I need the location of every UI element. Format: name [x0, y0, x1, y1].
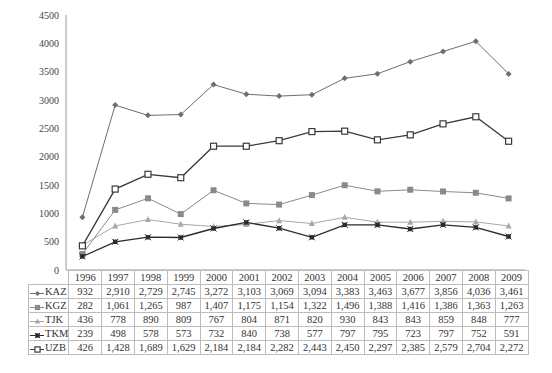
table-cell: 795 — [364, 327, 397, 341]
table-row: TKM2394985785737328407385777977957237977… — [29, 327, 529, 341]
table-cell: 436 — [69, 313, 102, 327]
data-point-marker — [79, 214, 85, 220]
data-point-marker — [276, 225, 282, 231]
data-point-marker — [342, 222, 348, 228]
data-point-marker — [473, 114, 479, 120]
data-point-marker — [243, 91, 249, 97]
y-tick-label: 4000 — [39, 38, 59, 49]
table-cell: 2,910 — [102, 285, 135, 299]
table-header-year: 2006 — [397, 271, 430, 285]
series-tkm — [79, 219, 511, 259]
table-cell: 573 — [167, 327, 200, 341]
table-cell: 1,388 — [364, 299, 397, 313]
table-cell: 2,704 — [462, 341, 495, 355]
table-cell: 3,677 — [397, 285, 430, 299]
table-header-year: 2007 — [430, 271, 463, 285]
table-cell: 987 — [167, 299, 200, 313]
square-open-marker-icon — [30, 345, 44, 353]
data-point-marker — [407, 132, 413, 138]
table-header-year: 1996 — [69, 271, 102, 285]
legend-entry: TKM — [29, 327, 69, 341]
y-tick-label: 4500 — [39, 10, 59, 21]
series-kgz — [79, 182, 511, 257]
data-point-marker — [243, 200, 249, 206]
data-point-marker — [145, 112, 151, 118]
table-header-year: 1998 — [134, 271, 167, 285]
table-cell: 930 — [331, 313, 364, 327]
series-uzb — [79, 114, 511, 249]
table-cell: 1,175 — [233, 299, 266, 313]
data-point-marker — [178, 211, 184, 217]
table-cell: 797 — [331, 327, 364, 341]
diamond-marker-icon — [30, 289, 44, 297]
y-tick-label: 500 — [44, 236, 59, 247]
table-cell: 804 — [233, 313, 266, 327]
data-point-marker — [309, 129, 315, 135]
table-cell: 2,579 — [430, 341, 463, 355]
data-point-marker — [79, 253, 85, 259]
table-cell: 732 — [200, 327, 233, 341]
data-point-marker — [374, 222, 380, 228]
data-point-marker — [473, 190, 479, 196]
data-table: 1996199719981999200020012002200320042005… — [28, 270, 529, 355]
data-point-marker — [342, 182, 348, 188]
table-cell: 843 — [364, 313, 397, 327]
star-marker-icon — [30, 331, 44, 339]
table-cell: 723 — [397, 327, 430, 341]
data-point-marker — [276, 93, 282, 99]
table-cell: 1,689 — [134, 341, 167, 355]
legend-label: TKM — [45, 328, 68, 339]
data-point-marker — [342, 214, 348, 220]
legend-label: KAZ — [45, 286, 67, 297]
y-tick-label: 3500 — [39, 66, 59, 77]
y-tick-label: 3000 — [39, 95, 59, 106]
table-header-year: 2001 — [233, 271, 266, 285]
data-point-marker — [112, 186, 118, 192]
table-cell: 3,383 — [331, 285, 364, 299]
table-cell: 282 — [69, 299, 102, 313]
data-point-marker — [506, 195, 512, 201]
table-header-year: 2002 — [266, 271, 299, 285]
table-cell: 1,322 — [298, 299, 331, 313]
data-point-marker — [276, 138, 282, 144]
data-point-marker — [309, 192, 315, 198]
table-row: KGZ2821,0611,2659871,4071,1751,1541,3221… — [29, 299, 529, 313]
table-cell: 809 — [167, 313, 200, 327]
table-cell: 4,036 — [462, 285, 495, 299]
table-cell: 738 — [266, 327, 299, 341]
table-header-year: 2003 — [298, 271, 331, 285]
table-cell: 2,282 — [266, 341, 299, 355]
data-point-marker — [79, 243, 85, 249]
table-header-year: 2009 — [495, 271, 528, 285]
table-cell: 3,463 — [364, 285, 397, 299]
table-cell: 2,745 — [167, 285, 200, 299]
table-cell: 1,428 — [102, 341, 135, 355]
legend-label: TJK — [45, 314, 63, 325]
data-point-marker — [309, 234, 315, 240]
data-point-marker — [309, 92, 315, 98]
table-corner — [29, 271, 69, 285]
table-cell: 2,184 — [200, 341, 233, 355]
table-header-year: 1999 — [167, 271, 200, 285]
data-point-marker — [506, 234, 512, 240]
data-point-marker — [407, 59, 413, 65]
series-tjk — [79, 214, 511, 248]
table-cell: 3,069 — [266, 285, 299, 299]
table-cell: 777 — [495, 313, 528, 327]
legend-label: KGZ — [45, 300, 67, 311]
data-point-marker — [178, 175, 184, 181]
legend-label: UZB — [45, 342, 66, 353]
table-cell: 778 — [102, 313, 135, 327]
table-cell: 843 — [397, 313, 430, 327]
table-cell: 1,416 — [397, 299, 430, 313]
data-point-marker — [276, 202, 282, 208]
data-point-marker — [374, 137, 380, 143]
table-cell: 2,184 — [233, 341, 266, 355]
table-cell: 1,629 — [167, 341, 200, 355]
data-point-marker — [145, 234, 151, 240]
table-header-year: 2004 — [331, 271, 364, 285]
data-point-marker — [407, 226, 413, 232]
table-cell: 932 — [69, 285, 102, 299]
table-cell: 591 — [495, 327, 528, 341]
data-point-marker — [145, 216, 151, 222]
